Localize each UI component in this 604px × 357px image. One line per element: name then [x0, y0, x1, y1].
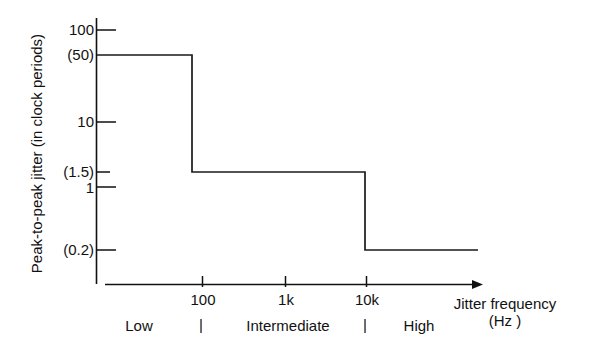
x-tick-label-1k: 1k [255, 292, 317, 307]
y-tick-label-1-5: (1.5) [22, 164, 94, 179]
y-axis-ticks [97, 30, 117, 250]
jitter-mask-curve [97, 55, 478, 250]
x-axis-unit: (Hz ) [430, 312, 580, 329]
y-tick-label-100: 100 [22, 22, 94, 37]
x-axis-ticks [203, 276, 367, 287]
y-tick-label-10: 10 [22, 114, 94, 129]
y-tick-label-0-2: (0.2) [22, 242, 94, 257]
x-axis-title: Jitter frequency (Hz ) [430, 295, 580, 329]
x-band-separator-2: | [363, 316, 367, 333]
x-axis-arrowhead [472, 280, 483, 289]
x-band-label-intermediate: Intermediate [228, 318, 348, 333]
x-axis-title-text: Jitter frequency [454, 295, 557, 312]
x-band-label-low: Low [108, 318, 170, 333]
y-tick-label-1: 1 [22, 180, 94, 195]
x-tick-label-10k: 10k [336, 292, 398, 307]
x-band-separator-1: | [199, 316, 203, 333]
x-tick-label-100: 100 [172, 292, 234, 307]
y-tick-label-50: (50) [22, 47, 94, 62]
jitter-tolerance-chart: Peak-to-peak jitter (in clock periods) 1… [0, 0, 604, 357]
